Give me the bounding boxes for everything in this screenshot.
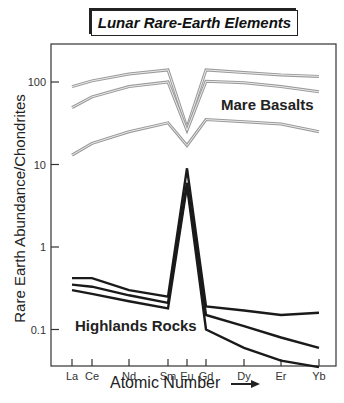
y-axis-label: Rare Earth Abundance/Chondrites <box>11 94 28 324</box>
y-tick-label: 1 <box>40 241 46 253</box>
x-tick-label: Er <box>276 370 287 382</box>
x-axis-label-text: Atomic Number <box>110 374 220 391</box>
annotation-mare-basalts: Mare Basalts <box>221 96 314 113</box>
y-tick-label: 100 <box>28 76 46 88</box>
y-tick-label: 10 <box>34 159 46 171</box>
x-tick-label: La <box>66 370 79 382</box>
x-tick-label: Yb <box>312 370 325 382</box>
series-line-mare-basalts <box>72 120 319 156</box>
x-tick-label: Ce <box>85 370 99 382</box>
arrow-right-icon <box>231 375 261 393</box>
y-tick-label: 0.1 <box>31 324 46 336</box>
x-axis-label: Atomic Number <box>110 374 261 393</box>
chart-plot: 1001010.1LaCeNdSmEuGdDyErYbMare BasaltsH… <box>0 0 344 403</box>
annotation-highlands-rocks: Highlands Rocks <box>75 317 197 334</box>
series-line-highlands <box>72 186 319 367</box>
